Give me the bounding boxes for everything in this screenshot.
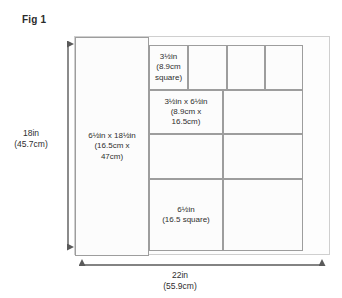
fabric-piece-label: 6½in (16.5 square)	[162, 205, 210, 225]
fabric-piece-label: 6½in x 18½in (16.5cm x 47cm)	[88, 131, 136, 162]
fabric-piece-top-square-2	[188, 45, 227, 90]
fabric-piece-top-square-3	[227, 45, 265, 90]
figure-caption: Fig 1	[22, 14, 46, 25]
vertical-dimension-label: 18in (45.7cm)	[2, 128, 60, 150]
fabric-piece-top-square-4	[265, 45, 303, 90]
fabric-piece-left-strip: 6½in x 18½in (16.5cm x 47cm)	[75, 37, 149, 256]
fabric-piece-top-square-1: 3½in (8.9cm square)	[149, 45, 188, 90]
fabric-piece-label: 3½in x 6½in (8.9cm x 16.5cm)	[164, 97, 207, 128]
fabric-piece-mid-left-1: 3½in x 6½in (8.9cm x 16.5cm)	[149, 90, 223, 134]
fabric-layout-frame: 6½in x 18½in (16.5cm x 47cm)3½in (8.9cm …	[74, 36, 330, 255]
fabric-piece-bottom-right	[223, 179, 303, 251]
fabric-piece-mid-left-2	[149, 134, 223, 179]
horizontal-dimension-label: 22in (55.9cm)	[120, 270, 240, 292]
vertical-dimension-arrow-icon	[61, 36, 75, 255]
fabric-piece-mid-right-2	[223, 134, 303, 179]
fabric-piece-mid-right-1	[223, 90, 303, 134]
fabric-piece-bottom-left: 6½in (16.5 square)	[149, 179, 223, 251]
fabric-piece-label: 3½in (8.9cm square)	[155, 52, 182, 83]
